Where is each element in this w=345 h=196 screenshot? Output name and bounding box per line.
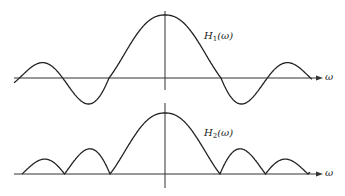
figure: H1(ω) ω H2(ω) ω — [0, 0, 345, 196]
h1-label: H1(ω) — [204, 30, 233, 43]
h2-axis-arrow-icon — [316, 172, 323, 177]
h1-curve — [14, 15, 312, 104]
h2-omega-label: ω — [325, 167, 333, 178]
h2-curve — [22, 113, 310, 174]
h1-omega-label: ω — [325, 71, 333, 82]
plots — [0, 0, 345, 196]
h1-axis-arrow-icon — [316, 76, 323, 81]
h2-label: H2(ω) — [204, 127, 233, 140]
